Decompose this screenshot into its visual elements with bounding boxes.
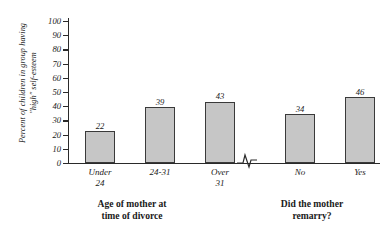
axis-break-icon: [236, 149, 258, 169]
y-axis-tick-label: 0: [57, 159, 61, 168]
x-axis-category-label: Yes: [330, 167, 390, 178]
y-axis-tick-label: 100: [48, 17, 61, 26]
bar: 46: [345, 97, 375, 162]
y-axis-tick-mark: [63, 163, 68, 164]
y-axis-tick-mark: [63, 78, 68, 79]
bar-value-label: 34: [296, 105, 305, 114]
y-axis-tick-mark: [63, 64, 68, 65]
group-caption: Did the mother remarry?: [252, 198, 372, 222]
bar: 22: [85, 131, 115, 162]
x-axis-category-label: 24-31: [130, 167, 190, 178]
group-caption: Age of mother at time of divorce: [72, 198, 192, 222]
y-axis-tick-mark: [63, 92, 68, 93]
y-axis-line: [68, 18, 69, 164]
x-axis-category-label: Over 31: [190, 167, 250, 189]
y-axis-title: Percent of children in group having "hig…: [17, 3, 39, 163]
y-axis-tick-mark: [63, 49, 68, 50]
bar: 34: [285, 114, 315, 162]
x-axis-line: [68, 163, 380, 164]
y-axis-tick-label: 90: [52, 31, 61, 40]
y-axis-tick-mark: [63, 35, 68, 36]
y-axis-tick-label: 70: [52, 59, 61, 68]
y-axis-tick-mark: [63, 106, 68, 107]
y-axis-tick-label: 20: [52, 130, 61, 139]
bar-value-label: 43: [216, 92, 225, 101]
bar: 43: [205, 102, 235, 163]
x-axis-category-label: No: [270, 167, 330, 178]
bar-value-label: 46: [356, 88, 365, 97]
bar-value-label: 22: [96, 122, 105, 131]
y-axis-tick-mark: [63, 120, 68, 121]
y-axis-tick-mark: [63, 21, 68, 22]
bar-value-label: 39: [156, 98, 165, 107]
y-axis-tick-label: 30: [52, 116, 61, 125]
y-axis-tick-label: 50: [52, 88, 61, 97]
bar: 39: [145, 107, 175, 162]
y-axis-tick-mark: [63, 149, 68, 150]
y-axis-tick-label: 80: [52, 45, 61, 54]
y-axis-tick-label: 10: [52, 145, 61, 154]
y-axis-tick-label: 60: [52, 74, 61, 83]
x-axis-category-label: Under 24: [70, 167, 130, 189]
y-axis-tick-mark: [63, 135, 68, 136]
bar-chart: Percent of children in group having "hig…: [0, 0, 391, 243]
plot-area: 0102030405060708090100 2239433446 Under …: [68, 18, 380, 164]
y-axis-tick-label: 40: [52, 102, 61, 111]
